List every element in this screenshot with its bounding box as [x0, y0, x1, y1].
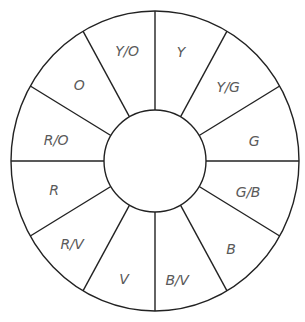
segment-label-bv: B/V: [166, 272, 191, 288]
center-circle: [104, 110, 206, 212]
segment-label-v: V: [119, 271, 130, 287]
segment-label-o: O: [74, 77, 85, 93]
segment-label-gb: G/B: [236, 184, 260, 200]
color-wheel-diagram: Y Y/G G G/B B B/V V R/V R R/O O Y/O: [0, 0, 305, 322]
segment-label-g: G: [249, 133, 260, 149]
segment-label-r: R: [49, 182, 58, 198]
segment-label-yo: Y/O: [115, 43, 139, 59]
segment-divider: [30, 86, 111, 136]
segment-label-b: B: [226, 241, 235, 257]
segment-divider: [30, 187, 111, 237]
segment-label-rv: R/V: [60, 236, 85, 252]
segment-divider: [181, 31, 228, 117]
segment-label-ro: R/O: [44, 132, 69, 148]
segment-label-yg: Y/G: [216, 79, 240, 95]
segment-label-y: Y: [177, 44, 187, 60]
